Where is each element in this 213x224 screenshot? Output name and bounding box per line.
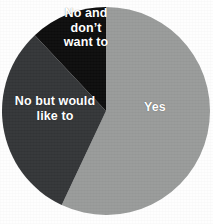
- pie-chart: No and don’t want to No but would like t…: [0, 0, 213, 224]
- pie-chart-canvas: [0, 0, 213, 224]
- pie-slices: [2, 7, 210, 215]
